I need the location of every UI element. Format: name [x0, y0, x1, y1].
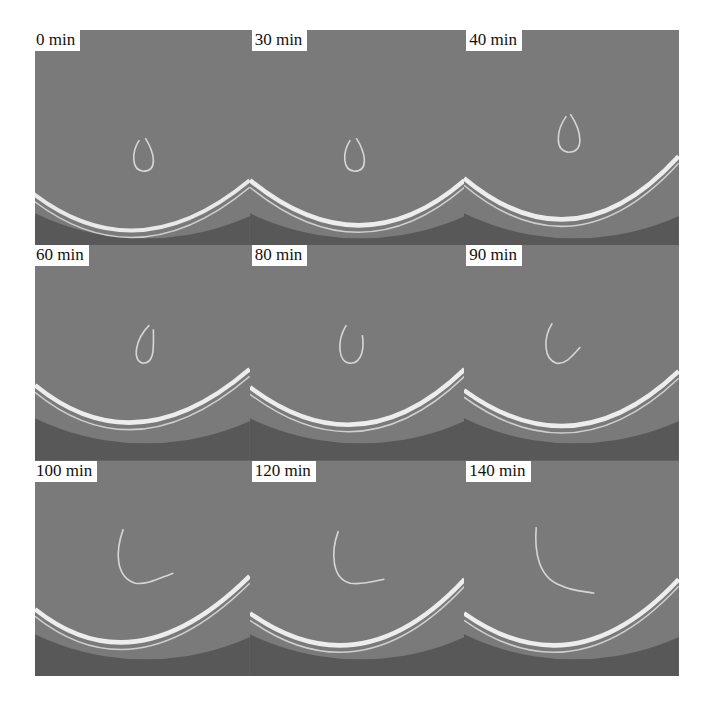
- dish-image: [35, 30, 250, 245]
- time-label: 120 min: [252, 461, 316, 482]
- dish-image: [250, 30, 465, 245]
- dish-image: [35, 245, 250, 460]
- time-lapse-grid: 0 min 30 min 40 min 60 min: [35, 30, 679, 676]
- dish-image: [464, 30, 679, 245]
- time-label: 100 min: [35, 461, 97, 482]
- panel-120-min: 120 min: [250, 461, 465, 676]
- time-label: 0 min: [35, 30, 80, 51]
- time-label: 80 min: [252, 245, 308, 266]
- panel-90-min: 90 min: [464, 245, 679, 460]
- panel-140-min: 140 min: [464, 461, 679, 676]
- dish-image: [464, 245, 679, 460]
- dish-image: [464, 461, 679, 676]
- panel-60-min: 60 min: [35, 245, 250, 460]
- time-label: 40 min: [466, 30, 522, 51]
- time-label: 60 min: [35, 245, 89, 266]
- time-label: 90 min: [466, 245, 522, 266]
- panel-40-min: 40 min: [464, 30, 679, 245]
- panel-0-min: 0 min: [35, 30, 250, 245]
- time-label: 30 min: [252, 30, 308, 51]
- panel-80-min: 80 min: [250, 245, 465, 460]
- time-label: 140 min: [466, 461, 530, 482]
- panel-30-min: 30 min: [250, 30, 465, 245]
- panel-100-min: 100 min: [35, 461, 250, 676]
- dish-image: [250, 461, 465, 676]
- dish-image: [250, 245, 465, 460]
- dish-image: [35, 461, 250, 676]
